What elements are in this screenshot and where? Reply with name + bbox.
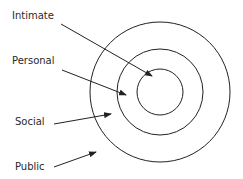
label-public: Public <box>15 161 45 172</box>
arrow-personal <box>62 70 126 95</box>
arrow-social <box>54 114 111 124</box>
arrow-intimate <box>61 24 152 76</box>
proxemics-diagram: Intimate Personal Social Public <box>0 0 243 179</box>
label-social: Social <box>15 116 45 127</box>
zone-circles <box>90 22 230 162</box>
label-intimate: Intimate <box>12 10 54 21</box>
circle-outer <box>90 22 230 162</box>
circle-middle <box>117 49 203 135</box>
circle-inner <box>137 69 183 115</box>
arrow-public <box>54 152 96 167</box>
label-personal: Personal <box>12 55 55 66</box>
